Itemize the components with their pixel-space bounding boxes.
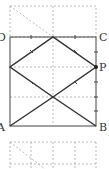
- geometry-diagram: D C P A B: [0, 0, 109, 169]
- point-p-dot: [94, 65, 98, 69]
- square-dashed-guides: [10, 37, 96, 126]
- label-c: C: [99, 31, 107, 44]
- bottom-dashed-grid: [10, 142, 96, 169]
- label-b: B: [99, 121, 107, 134]
- label-a: A: [0, 121, 6, 134]
- label-d: D: [0, 31, 6, 44]
- top-dashed-box: [10, 6, 96, 37]
- label-p: P: [99, 61, 107, 74]
